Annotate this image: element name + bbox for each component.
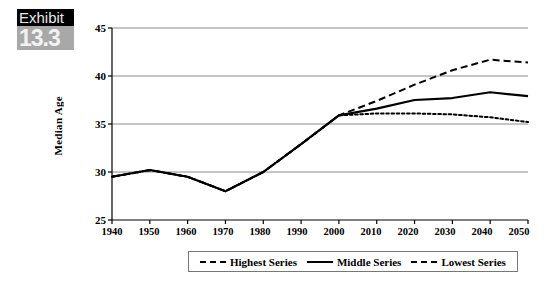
exhibit-label: Exhibit (17, 9, 74, 26)
exhibit-badge: Exhibit 13.3 (17, 9, 74, 50)
series-line (112, 60, 528, 192)
series-line (112, 113, 528, 191)
exhibit-figure: Exhibit 13.3 Median Age 45 40 35 30 25 1… (0, 0, 559, 283)
gridlines (112, 28, 528, 172)
legend-entry-highest: Highest Series (200, 256, 297, 268)
series-lines (112, 60, 528, 192)
axis-ticks (108, 28, 528, 224)
legend-entry-lowest: Lowest Series (411, 256, 505, 268)
solid-line-icon (307, 257, 333, 267)
dashed-line-icon (200, 257, 226, 267)
dash-dot-line-icon (411, 257, 437, 267)
legend-label: Middle Series (337, 256, 401, 268)
legend-label: Highest Series (230, 256, 297, 268)
legend-entry-middle: Middle Series (307, 256, 401, 268)
exhibit-number: 13.3 (17, 26, 74, 50)
chart-legend: Highest Series Middle Series Lowest Seri… (188, 251, 518, 272)
chart-plot-area (0, 0, 559, 283)
legend-label: Lowest Series (441, 256, 505, 268)
series-line (112, 92, 528, 191)
